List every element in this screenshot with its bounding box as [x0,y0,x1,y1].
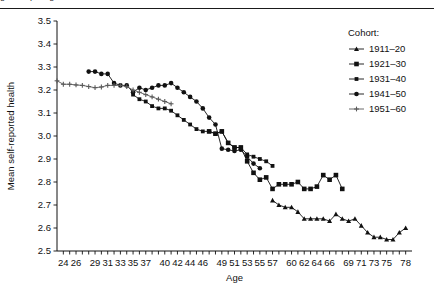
data-point [74,83,79,88]
data-point [201,130,205,134]
data-point [264,159,268,163]
x-axis-tick-label: 60 [286,257,297,268]
data-point [80,83,85,88]
data-point [137,90,142,95]
data-point [138,97,142,101]
y-axis-tick-label: 3.3 [38,61,51,72]
x-axis-tick-label: 40 [159,257,170,268]
x-axis-tick-label: 75 [381,257,392,268]
x-axis-tick-label: 51 [229,257,240,268]
cropped-header-text: ged ... p ... g [0,0,55,1]
y-axis-tick-label: 3.5 [38,15,51,26]
data-point [270,187,275,192]
legend-marker [355,77,359,81]
data-point [271,164,275,168]
legend-title: Cohort: [348,27,379,38]
y-axis-tick-label: 3.0 [38,130,51,141]
data-point [276,202,281,207]
data-point [86,69,91,74]
legend-label: 1951–60 [369,103,406,114]
data-point [181,90,186,95]
data-point [201,106,206,111]
legend-label: 1921–30 [369,58,406,69]
data-point [175,85,180,90]
data-point [144,100,148,104]
legend-item-5[interactable]: 1951–60 [349,103,406,114]
data-point [321,173,326,178]
x-axis-tick-label: 26 [71,257,82,268]
data-point [220,146,225,151]
data-point [403,225,408,230]
data-point [93,85,98,90]
data-point [182,118,186,122]
legend-marker [354,92,359,97]
data-point [258,177,263,182]
data-point [150,104,154,108]
data-point [214,132,218,136]
y-axis-title: Mean self-reported health [5,82,16,190]
x-axis-tick-label: 31 [102,257,113,268]
data-point [156,97,161,102]
data-point [188,95,193,100]
data-point [252,155,256,159]
series-line [209,131,342,189]
data-point [283,182,288,187]
x-axis-tick-label: 44 [185,257,196,268]
y-axis-tick-label: 3.1 [38,107,51,118]
legend-item-2[interactable]: 1921–30 [349,58,406,69]
data-point [99,85,104,90]
x-axis-tick-label: 78 [400,257,411,268]
data-point [302,187,307,192]
y-axis-tick-label: 2.9 [38,153,51,164]
data-point [86,84,91,89]
data-point [295,209,300,214]
legend-item-3[interactable]: 1931–40 [349,73,406,84]
x-axis-tick-label: 69 [343,257,354,268]
x-axis-title: Age [226,272,243,283]
data-point [150,95,155,100]
x-axis-tick-label: 42 [172,257,183,268]
data-point [163,107,167,111]
data-point [195,127,199,131]
data-point [162,83,167,88]
y-axis-tick-label: 3.4 [38,38,51,49]
data-point [213,122,218,127]
data-point [308,187,313,192]
data-point [188,123,192,127]
legend-item-1[interactable]: 1911–20 [349,43,405,54]
data-point [169,109,173,113]
data-point [245,154,250,159]
data-point [61,82,66,87]
y-axis-tick-label: 2.7 [38,199,51,210]
data-point [277,182,282,187]
series-1 [270,198,408,242]
legend-label: 1911–20 [369,43,405,54]
legend-item-4[interactable]: 1941–50 [349,88,406,99]
data-point [220,130,224,134]
data-point [194,99,199,104]
data-point [251,161,256,166]
x-axis-tick-label: 73 [369,257,380,268]
data-point [169,81,174,86]
x-axis-tick-label: 35 [128,257,139,268]
line-chart: 2.52.62.72.82.93.03.13.23.33.43.52426293… [0,8,434,294]
y-axis-tick-label: 2.8 [38,176,51,187]
data-point [264,175,269,180]
data-point [397,230,402,235]
y-axis-tick-label: 2.6 [38,222,51,233]
data-point [289,182,294,187]
legend-label: 1931–40 [369,73,406,84]
x-axis-tick-label: 55 [255,257,266,268]
series-4 [86,69,262,170]
data-point [156,83,161,88]
x-axis-tick-label: 49 [217,257,228,268]
x-axis-tick-label: 66 [324,257,335,268]
data-point [239,148,244,153]
x-axis-tick-label: 33 [115,257,126,268]
x-axis-tick-label: 53 [242,257,253,268]
x-axis-tick-label: 71 [356,257,367,268]
data-point [55,78,60,83]
data-point [105,83,110,88]
series-3 [131,93,274,168]
data-point [232,149,237,154]
